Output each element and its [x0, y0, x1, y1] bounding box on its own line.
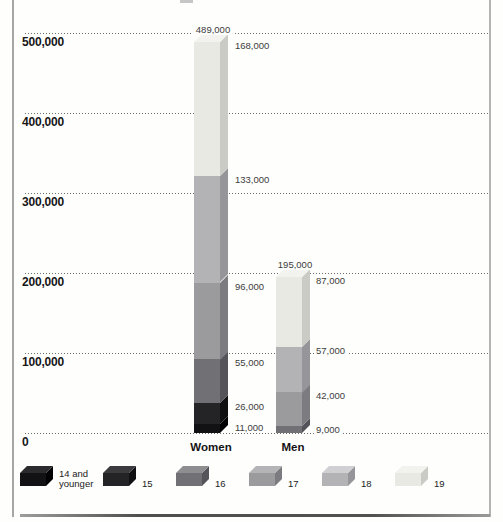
segment-value-label: 87,000 [314, 276, 347, 286]
y-tick-label-500000: 500,000 [22, 36, 64, 48]
segment-value-label: 133,000 [233, 175, 271, 185]
bar-men-segment-19 [276, 277, 302, 347]
total-label-women: 489,000 [193, 25, 233, 35]
bar-women-segment-side-19 [220, 34, 228, 176]
bar-women-segment-14-and-younger [194, 424, 220, 433]
y-tick-label-0: 0 [22, 436, 28, 448]
legend-label: younger [59, 479, 93, 489]
bar-men-segment-16 [276, 426, 302, 433]
segment-value-label: 42,000 [314, 391, 347, 401]
legend-label: 15 [142, 479, 153, 489]
y-tick-label-200000: 200,000 [22, 276, 64, 288]
segment-value-label: 26,000 [233, 402, 266, 412]
bar-women-segment-17 [194, 283, 220, 360]
legend: 14 andyounger1516171819 [0, 466, 503, 500]
bar-women-segment-side-17 [220, 275, 228, 360]
bar-women-segment-side-18 [220, 168, 228, 282]
bar-men-segment-side-19 [302, 269, 310, 347]
bar-women-segment-16 [194, 359, 220, 403]
figure-bottom-rule [20, 514, 490, 517]
bar-men-segment-18 [276, 347, 302, 393]
bar-women-segment-side-16 [220, 351, 228, 403]
legend-cube-icon [103, 473, 129, 486]
legend-cube-icon [395, 473, 421, 486]
gridline-500000 [25, 33, 488, 34]
plot-area: 0100,000200,000300,000400,000500,00011,0… [0, 0, 503, 460]
segment-value-label: 9,000 [314, 425, 342, 435]
segment-value-label: 55,000 [233, 358, 266, 368]
segment-value-label: 57,000 [314, 346, 347, 356]
y-tick-label-400000: 400,000 [22, 116, 64, 128]
segment-value-label: 11,000 [233, 423, 265, 433]
legend-cube-icon [249, 473, 275, 486]
gridline-200000 [25, 273, 488, 274]
bar-men-segment-side-18 [302, 339, 310, 393]
bar-men-segment-17 [276, 392, 302, 426]
legend-label: 16 [215, 479, 226, 489]
gridline-300000 [25, 193, 488, 194]
gridline-400000 [25, 113, 488, 114]
y-tick-label-100000: 100,000 [22, 356, 64, 368]
bar-women-segment-18 [194, 176, 220, 282]
legend-label: 17 [288, 479, 299, 489]
category-label-men: Men [282, 441, 305, 453]
category-label-women: Women [190, 441, 231, 453]
legend-cube-icon [20, 473, 46, 486]
bar-women-segment-19 [194, 42, 220, 176]
total-label-men: 195,000 [275, 260, 315, 270]
figure-root: 0100,000200,000300,000400,000500,00011,0… [0, 0, 503, 522]
gridline-100000 [25, 353, 488, 354]
bar-women-segment-15 [194, 403, 220, 424]
segment-value-label: 168,000 [233, 41, 271, 51]
legend-cube-icon [176, 473, 202, 486]
y-tick-label-300000: 300,000 [22, 196, 64, 208]
legend-cube-icon [322, 473, 348, 486]
legend-label: 18 [361, 479, 372, 489]
legend-label: 19 [434, 479, 445, 489]
segment-value-label: 96,000 [233, 282, 266, 292]
